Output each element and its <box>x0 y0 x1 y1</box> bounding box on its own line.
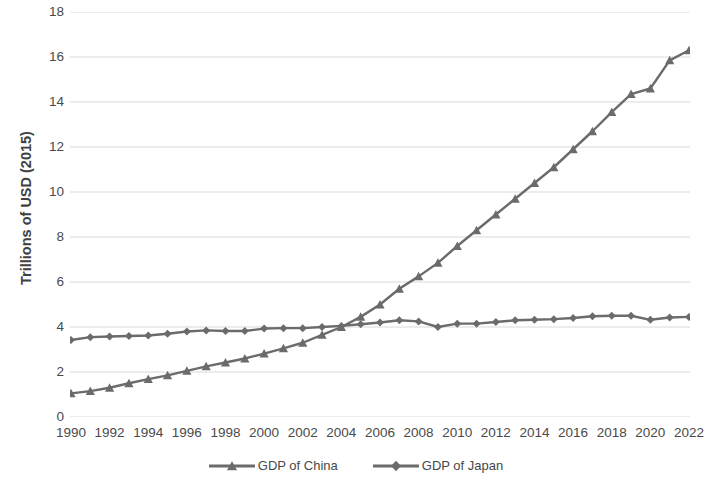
x-tick-label: 1996 <box>165 426 209 440</box>
data-point-marker <box>685 313 690 321</box>
x-tick-label: 2000 <box>242 426 286 440</box>
data-point-marker <box>260 325 268 333</box>
x-tick-label: 2002 <box>281 426 325 440</box>
data-point-marker <box>666 314 674 322</box>
legend-label-japan: GDP of Japan <box>422 458 503 473</box>
plot-svg <box>70 12 690 417</box>
x-tick-label: 2020 <box>628 426 672 440</box>
data-point-marker <box>202 326 210 334</box>
x-tick-label: 2018 <box>590 426 634 440</box>
y-tick-label: 16 <box>38 50 64 64</box>
y-tick-label: 0 <box>38 410 64 424</box>
legend-label-china: GDP of China <box>258 458 338 473</box>
data-point-marker <box>415 317 423 325</box>
x-tick-label: 1998 <box>204 426 248 440</box>
chart-legend: GDP of China GDP of Japan <box>0 458 711 473</box>
x-tick-label: 2006 <box>358 426 402 440</box>
y-tick-label: 10 <box>38 185 64 199</box>
series-layer <box>70 46 690 398</box>
legend-item-japan[interactable]: GDP of Japan <box>372 458 503 473</box>
data-point-marker <box>395 316 403 324</box>
data-point-marker <box>376 319 384 327</box>
diamond-marker-icon <box>372 459 420 473</box>
y-axis-tick-labels: 024681012141618 <box>30 0 64 440</box>
data-point-marker <box>473 320 481 328</box>
x-tick-label: 2012 <box>474 426 518 440</box>
data-point-marker <box>569 314 577 322</box>
data-point-marker <box>86 333 94 341</box>
x-tick-label: 2004 <box>319 426 363 440</box>
x-tick-label: 2014 <box>513 426 557 440</box>
series-china <box>70 46 690 398</box>
y-tick-label: 2 <box>38 365 64 379</box>
data-point-marker <box>241 327 249 335</box>
x-tick-label: 2008 <box>397 426 441 440</box>
y-tick-label: 4 <box>38 320 64 334</box>
data-point-marker <box>511 316 519 324</box>
legend-item-china[interactable]: GDP of China <box>208 458 338 473</box>
data-point-marker <box>492 318 500 326</box>
data-point-marker <box>125 332 133 340</box>
y-tick-label: 8 <box>38 230 64 244</box>
data-point-marker <box>646 316 654 324</box>
x-tick-label: 2016 <box>551 426 595 440</box>
x-tick-label: 1992 <box>88 426 132 440</box>
y-tick-label: 18 <box>38 5 64 19</box>
data-point-marker <box>144 332 152 340</box>
line-chart: Trillions of USD (2015) 024681012141618 … <box>0 0 711 490</box>
y-tick-label: 6 <box>38 275 64 289</box>
y-tick-label: 12 <box>38 140 64 154</box>
data-point-marker <box>279 324 287 332</box>
data-point-marker <box>434 323 442 331</box>
x-tick-label: 2022 <box>667 426 711 440</box>
triangle-marker-icon <box>208 459 256 473</box>
data-point-marker <box>318 323 326 331</box>
data-point-marker <box>222 327 230 335</box>
data-point-marker <box>531 316 539 324</box>
y-tick-label: 14 <box>38 95 64 109</box>
series-japan <box>70 312 690 344</box>
data-point-marker <box>588 312 596 320</box>
data-point-marker <box>684 46 690 55</box>
data-point-marker <box>183 328 191 336</box>
data-point-marker <box>70 336 75 344</box>
x-tick-label: 2010 <box>435 426 479 440</box>
data-point-marker <box>164 330 172 338</box>
x-axis-tick-labels: 1990199219941996199820002002200420062008… <box>0 426 711 448</box>
data-point-marker <box>453 320 461 328</box>
data-point-marker <box>299 324 307 332</box>
plot-area <box>70 12 690 417</box>
data-point-marker <box>627 312 635 320</box>
gridlines <box>70 12 690 417</box>
data-point-marker <box>106 332 114 340</box>
data-point-marker <box>608 312 616 320</box>
x-tick-label: 1990 <box>49 426 93 440</box>
x-tick-label: 1994 <box>126 426 170 440</box>
data-point-marker <box>550 315 558 323</box>
